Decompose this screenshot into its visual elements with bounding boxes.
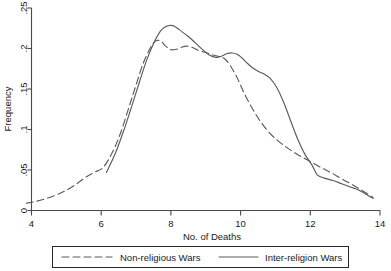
y-tick-label: .2	[18, 45, 29, 53]
y-tick-label: .15	[18, 82, 29, 95]
series-non-religious-wars	[26, 40, 373, 203]
series-inter-religion-wars	[106, 25, 373, 198]
x-tick-label: 4	[29, 218, 34, 229]
y-tick-label: .1	[18, 126, 29, 134]
legend-label-non-religious-wars: Non-religious Wars	[120, 252, 201, 263]
chart-legend: Non-religious Wars Inter-religion Wars	[53, 247, 349, 268]
x-axis-ticks: 468101214	[29, 211, 385, 229]
data-series-group	[26, 25, 373, 203]
y-axis-ticks: 0.05.1.15.2.25	[18, 1, 32, 213]
legend-label-inter-religion-wars: Inter-religion Wars	[265, 252, 343, 263]
x-tick-label: 6	[99, 218, 104, 229]
x-axis-title: No. of Deaths	[183, 231, 241, 242]
x-tick-label: 12	[305, 218, 316, 229]
x-tick-label: 14	[375, 218, 386, 229]
kernel-density-figure: 0.05.1.15.2.25 468101214 Frequency No. o…	[0, 0, 391, 271]
y-tick-label: .05	[18, 163, 29, 176]
x-tick-label: 8	[168, 218, 173, 229]
y-axis-title: Frequency	[2, 86, 13, 131]
plot-axes	[32, 8, 381, 211]
chart-canvas: 0.05.1.15.2.25 468101214 Frequency No. o…	[0, 0, 391, 271]
y-tick-label: 0	[18, 208, 29, 213]
x-tick-label: 10	[235, 218, 246, 229]
y-tick-label: .25	[18, 1, 29, 14]
